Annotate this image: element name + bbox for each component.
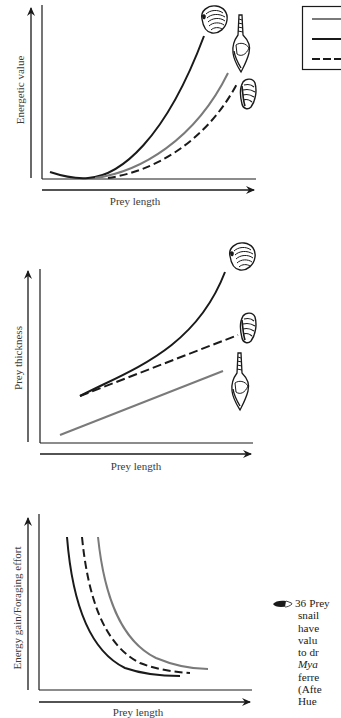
- mussel-shell-icon: [241, 313, 256, 343]
- caption-line-2: snail: [273, 609, 341, 621]
- curve-solid-gray: [60, 371, 223, 435]
- caption-line-9: Hue: [273, 695, 341, 707]
- figure-number: 36: [295, 597, 306, 609]
- curve-solid-gray: [98, 537, 208, 669]
- curve-dashed-black: [80, 335, 238, 396]
- caption-line-6: Mya: [273, 658, 341, 670]
- y-axis-label: Energy gain/Foraging effort: [11, 546, 23, 669]
- snail-shell-icon: [233, 15, 250, 72]
- mussel-shell-icon: [241, 79, 256, 109]
- clam-shell-icon: [230, 243, 255, 270]
- caption-line-1: 36Prey: [273, 597, 341, 609]
- caption-line-4: valu: [273, 634, 341, 646]
- y-axis-label: Prey thickness: [12, 326, 24, 390]
- panel-energetic-value: Prey length Energetic value: [14, 5, 341, 207]
- figure-caption: 36Prey snail have valu to dr Mya ferre (…: [273, 597, 341, 708]
- curve-dashed-black: [82, 537, 190, 673]
- legend-box: [303, 7, 341, 70]
- x-axis-label: Prey length: [110, 195, 161, 207]
- curve-solid-black: [50, 36, 204, 178]
- curve-solid-black: [67, 537, 180, 676]
- x-axis-label: Prey length: [111, 460, 162, 472]
- caption-line-3: have: [273, 622, 341, 634]
- panel-prey-thickness: Prey length Prey thickness: [12, 243, 256, 472]
- clam-shell-icon: [202, 6, 227, 33]
- whelk-icon: [273, 600, 293, 608]
- x-axis-label: Prey length: [113, 706, 164, 718]
- y-axis-label: Energetic value: [14, 56, 26, 125]
- curve-dashed-black: [108, 82, 238, 178]
- caption-line-8: (Afte: [273, 683, 341, 695]
- caption-line-7: ferre: [273, 671, 341, 683]
- curve-solid-black: [80, 272, 225, 396]
- caption-line-5: to dr: [273, 646, 341, 658]
- panel-energy-gain-foraging-effort: Prey length Energy gain/Foraging effort: [11, 514, 252, 718]
- snail-shell-icon: [232, 353, 249, 410]
